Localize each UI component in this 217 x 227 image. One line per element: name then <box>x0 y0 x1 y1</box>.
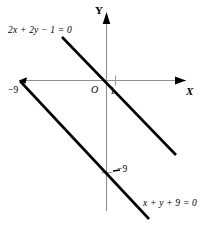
equation-label-line1: 2x + 2y − 1 = 0 <box>8 26 72 36</box>
y-axis-label: Y <box>95 5 103 16</box>
x-axis-arrowhead-icon <box>175 77 186 85</box>
tick-label-x-one: 1 <box>110 87 115 97</box>
x-axis-label: X <box>186 86 194 97</box>
origin-label: O <box>91 85 98 95</box>
line-graph-figure: 2x + 2y − 1 = 0 x + y + 9 = 0 Y X O 1 −9… <box>0 0 217 227</box>
y-axis-arrowhead-icon <box>103 12 111 24</box>
graph-line-x-y-9 <box>20 81 149 219</box>
y-axis <box>103 12 111 211</box>
equation-label-line2: x + y + 9 = 0 <box>143 199 197 209</box>
tick-label-x-negative-nine: −9 <box>8 86 19 96</box>
tick-label-y-negative-nine: −9 <box>117 165 128 175</box>
graph-line-2x-2y-1 <box>62 37 176 155</box>
